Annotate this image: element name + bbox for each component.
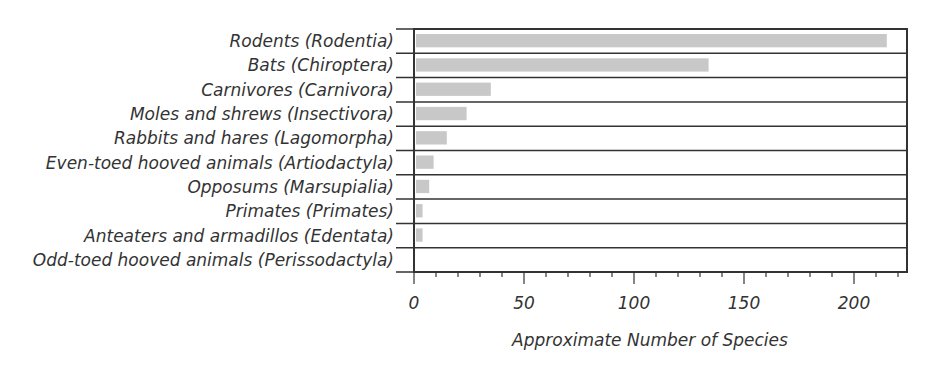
category-label: Bats (Chiroptera) xyxy=(248,55,394,75)
category-label: Rabbits and hares (Lagomorpha) xyxy=(114,128,394,148)
bar xyxy=(416,156,434,169)
bar xyxy=(416,58,709,71)
bar xyxy=(416,180,429,193)
category-label: Rodents (Rodentia) xyxy=(230,31,394,51)
bar xyxy=(416,83,491,96)
x-tick-label: 0 xyxy=(409,293,420,313)
category-label: Odd-toed hooved animals (Perissodactyla) xyxy=(33,250,394,270)
category-label: Opposums (Marsupialia) xyxy=(187,177,394,197)
bar xyxy=(416,34,887,47)
bar xyxy=(416,131,447,144)
x-axis: 050100150200 xyxy=(409,272,898,313)
x-tick-label: 100 xyxy=(618,293,650,313)
x-tick-label: 200 xyxy=(838,293,870,313)
bar xyxy=(416,204,423,217)
category-labels: Rodents (Rodentia)Bats (Chiroptera)Carni… xyxy=(33,31,394,270)
x-tick-label: 150 xyxy=(728,293,760,313)
category-label: Moles and shrews (Insectivora) xyxy=(130,104,394,124)
category-label: Primates (Primates) xyxy=(225,201,394,221)
x-axis-label: Approximate Number of Species xyxy=(511,330,788,350)
bar xyxy=(416,228,423,241)
category-label: Carnivores (Carnivora) xyxy=(201,80,394,100)
category-label: Anteaters and armadillos (Edentata) xyxy=(83,226,394,246)
x-tick-label: 50 xyxy=(513,293,535,313)
bars xyxy=(416,34,887,242)
category-label: Even-toed hooved animals (Artiodactyla) xyxy=(46,153,394,173)
bar xyxy=(416,107,467,120)
bar-chart: Rodents (Rodentia)Bats (Chiroptera)Carni… xyxy=(0,0,940,376)
